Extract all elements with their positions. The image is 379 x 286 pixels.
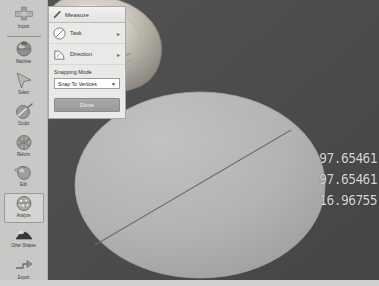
bottom-strip bbox=[0, 280, 379, 286]
snapping-mode-block: Snapping Mode Snap To Vertices ▼ bbox=[49, 65, 125, 94]
chevron-down-icon: ▼ bbox=[111, 81, 116, 87]
panel-row-direction[interactable]: Direction ▸ bbox=[49, 44, 125, 65]
panel-row-task[interactable]: Task ▸ bbox=[49, 23, 125, 44]
sidebar-item-edit[interactable]: Edit bbox=[4, 162, 44, 192]
measurement-circle[interactable] bbox=[75, 92, 325, 278]
sidebar-item-label: Edit bbox=[20, 182, 27, 188]
pencil-icon bbox=[53, 10, 62, 19]
sidebar-item-machine[interactable]: Machine bbox=[4, 39, 44, 69]
panel-row-label: Task bbox=[70, 30, 117, 36]
edit-sphere-icon bbox=[13, 163, 35, 182]
sphere-machine-icon bbox=[13, 40, 35, 59]
sidebar-item-label: Sculpt bbox=[18, 120, 29, 126]
sidebar-item-import[interactable]: Import bbox=[4, 4, 44, 34]
application-window: Import Machine Select Sculpt bbox=[0, 0, 379, 286]
measure-panel-header: Measure bbox=[49, 7, 125, 23]
sidebar-item-other-shapes[interactable]: Other Shapes bbox=[4, 224, 44, 254]
sidebar-item-analyze[interactable]: Analyze bbox=[4, 193, 44, 223]
other-shapes-icon bbox=[13, 225, 35, 244]
sidebar-item-label: Other Shapes bbox=[5, 244, 43, 249]
measure-panel: Measure Task ▸ Direction ▸ Snapping Mode… bbox=[48, 6, 126, 119]
sidebar-item-label: Select bbox=[18, 89, 29, 95]
sidebar-item-reform[interactable]: Reform bbox=[4, 132, 44, 162]
snapping-mode-select[interactable]: Snap To Vertices ▼ bbox=[54, 78, 120, 89]
done-button[interactable]: Done bbox=[54, 98, 120, 112]
sidebar-item-label: Reform bbox=[17, 151, 30, 157]
cursor-arrow-icon bbox=[13, 71, 35, 90]
circle-slash-icon bbox=[53, 27, 66, 40]
snapping-mode-label: Snapping Mode bbox=[54, 69, 120, 75]
tool-sidebar: Import Machine Select Sculpt bbox=[0, 0, 48, 286]
chevron-right-icon: ▸ bbox=[117, 51, 120, 58]
reform-mesh-icon bbox=[13, 133, 35, 152]
sidebar-item-label: Analyze bbox=[16, 213, 30, 219]
export-arrow-icon bbox=[13, 256, 35, 275]
sculpt-tool-icon bbox=[13, 102, 35, 121]
snapping-mode-value: Snap To Vertices bbox=[58, 81, 111, 87]
analyze-sphere-icon bbox=[13, 194, 35, 213]
sidebar-item-sculpt[interactable]: Sculpt bbox=[4, 101, 44, 131]
chevron-right-icon: ▸ bbox=[117, 30, 120, 37]
measure-panel-title: Measure bbox=[65, 12, 89, 18]
angle-arc-icon bbox=[53, 48, 66, 61]
done-button-label: Done bbox=[80, 102, 94, 108]
plus-import-icon bbox=[13, 5, 35, 24]
sidebar-item-label: Import bbox=[18, 24, 29, 30]
sidebar-item-select[interactable]: Select bbox=[4, 70, 44, 100]
sidebar-item-label: Machine bbox=[16, 59, 31, 65]
panel-row-label: Direction bbox=[70, 51, 117, 57]
sidebar-divider bbox=[7, 36, 41, 37]
